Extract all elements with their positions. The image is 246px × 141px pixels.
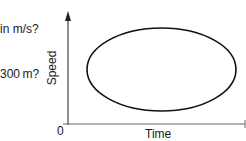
speed-time-graph <box>0 0 246 141</box>
x-axis-label: Time <box>145 128 171 140</box>
ellipse-curve <box>87 28 236 111</box>
origin-label: 0 <box>57 125 64 137</box>
y-axis-arrowhead-icon <box>65 11 71 21</box>
y-axis-label: Speed <box>46 51 58 86</box>
